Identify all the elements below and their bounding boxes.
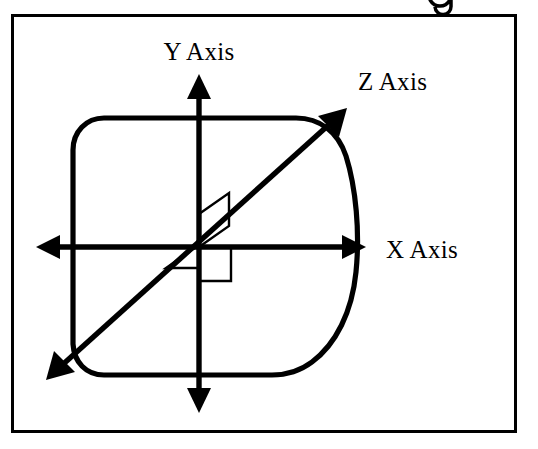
figure-root: Y Axis Z Axis X Axis [0,0,538,449]
y-axis-label: Y Axis [163,38,234,65]
x-axis-label: X Axis [386,236,458,263]
z-axis-label: Z Axis [358,68,427,95]
coordinate-axes-diagram: Y Axis Z Axis X Axis [0,0,538,449]
clipped-top-glyph [429,0,451,15]
